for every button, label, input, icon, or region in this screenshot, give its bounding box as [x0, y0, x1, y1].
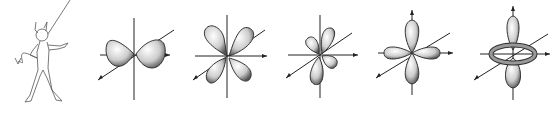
- orbital-2-diagram: [187, 0, 282, 121]
- orbital-5-diagram: [458, 0, 556, 121]
- devil-illustration: [0, 0, 90, 121]
- orbital-4-diagram: [368, 0, 463, 121]
- orbital-3-diagram: [282, 0, 372, 121]
- orbital-1-diagram: [92, 0, 187, 121]
